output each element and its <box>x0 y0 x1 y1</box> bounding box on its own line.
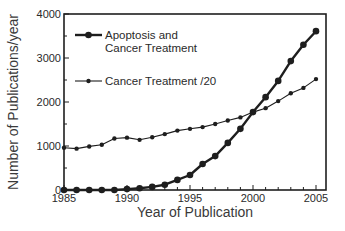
data-point-marker <box>87 144 91 148</box>
data-point-marker <box>212 153 219 160</box>
data-point-marker <box>213 122 217 126</box>
data-point-marker <box>289 91 293 95</box>
data-point-marker <box>300 42 307 49</box>
legend-entry: Apoptosis andCancer Treatment <box>75 29 198 54</box>
data-point-marker <box>149 184 156 191</box>
legend-label: Apoptosis and <box>105 29 178 41</box>
data-point-marker <box>163 132 167 136</box>
data-point-marker <box>313 28 320 35</box>
series-cancer-treatment-div20 <box>62 77 318 151</box>
data-point-marker <box>112 136 116 140</box>
y-tick-label: 4000 <box>37 8 61 20</box>
legend-label: Cancer Treatment /20 <box>105 75 216 87</box>
data-point-marker <box>175 128 179 132</box>
y-tick-label: 3000 <box>37 52 61 64</box>
data-point-marker <box>61 187 68 194</box>
y-tick-label: 2000 <box>37 96 61 108</box>
data-point-marker <box>237 126 244 133</box>
legend-marker-icon <box>86 79 90 83</box>
x-tick-label: 2000 <box>241 192 265 204</box>
data-point-marker <box>238 115 242 119</box>
plot-border <box>64 14 326 190</box>
data-point-marker <box>99 187 106 194</box>
data-point-marker <box>251 110 255 114</box>
x-tick-label: 1995 <box>178 192 202 204</box>
data-point-marker <box>226 118 230 122</box>
y-tick-label: 1000 <box>37 140 61 152</box>
data-point-marker <box>200 125 204 129</box>
data-point-marker <box>225 140 232 147</box>
data-point-marker <box>263 106 267 110</box>
data-point-marker <box>275 78 282 85</box>
data-point-marker <box>74 146 78 150</box>
data-point-marker <box>262 94 269 101</box>
data-point-marker <box>73 187 80 194</box>
data-point-marker <box>100 142 104 146</box>
publications-line-chart: 01000200030004000 19851990199520002005 A… <box>0 0 345 231</box>
data-point-marker <box>276 99 280 103</box>
x-axis: 19851990199520002005 <box>52 185 328 204</box>
data-point-marker <box>62 146 66 150</box>
series-line <box>64 79 316 149</box>
data-point-marker <box>137 138 141 142</box>
data-point-marker <box>111 187 118 194</box>
data-point-marker <box>124 186 131 193</box>
data-point-marker <box>288 58 295 65</box>
data-point-marker <box>187 172 194 179</box>
plot-frame <box>64 14 326 190</box>
data-point-marker <box>188 127 192 131</box>
legend-entry: Cancer Treatment /20 <box>75 75 216 87</box>
data-point-marker <box>125 135 129 139</box>
data-point-marker <box>150 135 154 139</box>
data-point-marker <box>136 185 143 192</box>
data-point-marker <box>301 86 305 90</box>
data-point-marker <box>86 187 93 194</box>
series-line <box>64 31 316 190</box>
data-point-marker <box>199 161 206 168</box>
legend: Apoptosis andCancer TreatmentCancer Trea… <box>75 29 216 87</box>
y-axis-title: Number of Publications/year <box>5 14 21 190</box>
data-point-marker <box>174 177 181 184</box>
x-tick-label: 1990 <box>115 192 139 204</box>
x-tick-label: 1985 <box>52 192 76 204</box>
data-point-marker <box>162 181 169 188</box>
legend-marker-icon <box>85 32 92 39</box>
y-axis: 01000200030004000 <box>37 8 69 196</box>
x-axis-title: Year of Publication <box>137 204 253 220</box>
x-tick-label: 2005 <box>304 192 328 204</box>
data-point-marker <box>314 77 318 81</box>
legend-label: Cancer Treatment <box>105 42 198 54</box>
